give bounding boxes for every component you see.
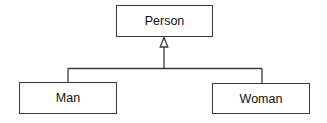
class-label-man: Man: [56, 91, 80, 105]
class-label-woman: Woman: [240, 92, 283, 106]
class-box-person[interactable]: Person: [116, 5, 213, 37]
class-label-person: Person: [145, 14, 185, 28]
generalization-arrowhead-icon: [160, 38, 168, 48]
uml-diagram-canvas: Person Man Woman: [0, 0, 327, 123]
class-box-woman[interactable]: Woman: [212, 83, 310, 114]
class-box-man[interactable]: Man: [19, 82, 117, 114]
